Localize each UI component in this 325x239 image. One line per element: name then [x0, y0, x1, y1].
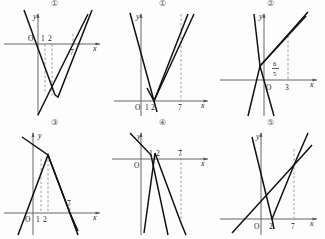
- tick-label-5-b: 2: [156, 149, 160, 158]
- tick-label-4-a: 1: [36, 215, 40, 224]
- y-axis-label-5: y: [136, 132, 141, 141]
- graph-panel-3: ② y x O 3 6 5: [216, 0, 325, 119]
- tick-label-1-a: 1: [41, 34, 45, 43]
- tick-label-2-b: 2: [151, 103, 155, 112]
- graph-panel-6: ⑤ y x O 2 7: [216, 119, 325, 238]
- tick-label-6-b: 7: [291, 222, 295, 231]
- y-axis-label-3: y: [258, 12, 263, 21]
- plot-area-2: y x O 1 2 7: [108, 0, 216, 119]
- tick-label-2-a: 1: [145, 103, 149, 112]
- y-axis-arrow-2: [140, 13, 143, 18]
- x-axis-label-5: x: [200, 159, 205, 168]
- line-v-right-6: [272, 133, 308, 219]
- y-axis-label-4: y: [37, 131, 42, 140]
- line-v-up-2: [147, 14, 188, 101]
- origin-label-3: O: [266, 83, 272, 92]
- fraction-numerator-3: 6: [273, 60, 277, 67]
- plot-area-3: y x O 3 6 5: [216, 0, 324, 119]
- tick-label-5-c: 7: [178, 149, 182, 158]
- x-axis-label-4: x: [92, 213, 97, 222]
- line-descending-2: [130, 13, 157, 112]
- x-axis-label-6: x: [309, 219, 314, 228]
- x-axis-label-1: x: [92, 44, 97, 53]
- plot-area-5: y x O 1 2 7: [108, 119, 216, 238]
- origin-label-2: O: [135, 103, 141, 112]
- x-axis-label-3: x: [309, 80, 314, 89]
- origin-label-4: O: [25, 215, 31, 224]
- tick-label-4-b: 2: [43, 215, 47, 224]
- tick-label-2-c: 7: [178, 103, 182, 112]
- line-descending-6: [252, 137, 274, 229]
- tick-label-5-a: 1: [149, 149, 153, 158]
- line-descending-1: [24, 10, 55, 95]
- tick-label-6-a: 2: [269, 222, 273, 231]
- y-axis-label-6: y: [255, 132, 260, 141]
- plot-area-4: y x O 1 2 7: [0, 119, 108, 238]
- plot-area-1: y x O 1 2 7: [0, 0, 108, 119]
- line-v-right-2: [154, 14, 194, 101]
- y-axis-arrow-6: [260, 132, 263, 137]
- y-axis-label-1: y: [32, 12, 37, 21]
- origin-label-1: O: [28, 34, 34, 43]
- fraction-denominator-3: 5: [273, 70, 276, 77]
- x-axis-label-2: x: [200, 101, 205, 110]
- plot-area-6: y x O 2 7: [216, 119, 324, 238]
- tick-label-3-a: 3: [285, 83, 289, 92]
- tick-label-4-c: 7: [67, 199, 71, 208]
- origin-label-5: O: [134, 161, 140, 170]
- line-rising-1: [38, 14, 88, 115]
- graph-panel-2: ① y x O 1 2 7: [108, 0, 216, 119]
- figure-sheet: ① y x O 1 2 7: [0, 0, 325, 239]
- y-axis-arrow-1: [37, 13, 40, 18]
- graph-panel-4: ③ y x O 1 2 7: [0, 119, 108, 238]
- line-rising-b-3: [260, 16, 306, 66]
- origin-label-6: O: [254, 222, 260, 231]
- tick-label-1-c: 7: [70, 48, 74, 57]
- graph-panel-5: ④ y x O 1 2 7: [108, 119, 216, 238]
- tick-label-1-b: 2: [48, 34, 52, 43]
- graph-panel-1: ① y x O 1 2 7: [0, 0, 108, 119]
- line-rising-3: [248, 12, 308, 116]
- y-axis-arrow-4: [32, 132, 35, 137]
- y-axis-arrow-3: [263, 13, 266, 18]
- y-axis-label-2: y: [135, 12, 140, 21]
